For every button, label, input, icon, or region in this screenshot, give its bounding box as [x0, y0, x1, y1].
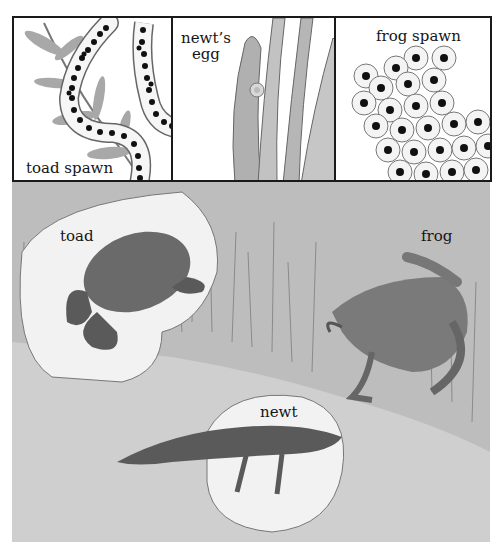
frog-spawn-panel: frog spawn [334, 16, 492, 182]
newts-egg-label: newt’s egg [181, 30, 231, 62]
toad-spawn-label: toad spawn [26, 160, 113, 176]
newts-egg-panel: newt’s egg [171, 16, 336, 182]
frog-label: frog [421, 228, 452, 244]
frog-spawn-label: frog spawn [376, 28, 461, 44]
newts-egg-label-line1: newt’s [181, 30, 231, 46]
habitat-scene: toad frog newt [12, 182, 490, 542]
newt-label: newt [260, 404, 297, 420]
toad-spawn-panel: toad spawn [12, 16, 173, 182]
toad-label: toad [60, 228, 94, 244]
newts-egg-label-line2: egg [181, 46, 231, 62]
toad-spawn-illustration [14, 18, 173, 182]
